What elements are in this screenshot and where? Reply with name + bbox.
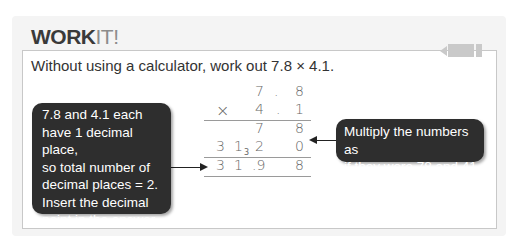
digit: 1 [295, 101, 304, 117]
carry-digit: 3 [244, 148, 249, 157]
digit: 4 [255, 101, 264, 117]
callout-line: 7.8 and 4.1 each [42, 106, 171, 124]
pencil-tip-icon [440, 46, 447, 56]
callout-decimal-places: 7.8 and 4.1 each have 1 decimal place, s… [32, 103, 171, 214]
digit: 8 [295, 120, 304, 136]
digit: 3 [216, 157, 225, 173]
arrow-right-icon [200, 163, 208, 171]
question-text: Without using a calculator, work out 7.8… [31, 57, 334, 74]
callout-line: if they were 78 and 41. [344, 158, 484, 176]
digit: 8 [295, 83, 304, 99]
digit: 7 [255, 120, 264, 136]
callout-line: Insert the decimal [42, 194, 171, 212]
callout-line: point in the answer. [42, 211, 171, 229]
callout-line: decimal places = 2. [42, 176, 171, 194]
pencil-tab-icon [440, 44, 488, 57]
digit: 1 [234, 157, 243, 173]
callout-line: so total number of [42, 159, 171, 177]
rule-line [204, 176, 311, 177]
decimal-point: . [276, 101, 280, 117]
decimal-point: . [274, 83, 278, 99]
pencil-end-icon [476, 44, 482, 57]
digit: 7 [255, 83, 264, 99]
multiply-sign: × [216, 101, 229, 120]
digit: .9 [252, 157, 265, 173]
digit: 0 [295, 138, 304, 154]
section-title: WORKIT! [31, 25, 119, 49]
title-light: IT! [96, 25, 119, 48]
digit: 8 [295, 157, 304, 173]
arrow-left-icon [309, 136, 317, 144]
title-bold: WORK [31, 25, 96, 48]
callout-line: have 1 decimal place, [42, 124, 171, 159]
arrow-line [316, 140, 338, 141]
callout-multiply: Multiply the numbers as if they were 78 … [336, 119, 484, 162]
digit: 1 [234, 138, 243, 154]
digit: 3 [216, 138, 225, 154]
pencil-body-icon [448, 44, 474, 57]
digit: 2 [255, 138, 264, 154]
arrow-line [171, 167, 201, 168]
callout-line: Multiply the numbers as [344, 123, 484, 158]
